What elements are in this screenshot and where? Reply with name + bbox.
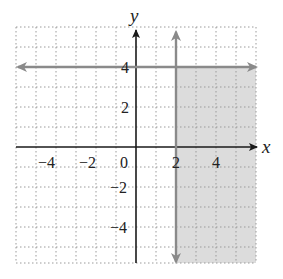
- x-tick-label: 0: [120, 154, 128, 171]
- y-tick-label: 4: [121, 59, 129, 76]
- inequality-graph: x y −4 −2 0 2 4 4 2 −2 −4: [0, 0, 283, 279]
- y-tick-label: −2: [110, 179, 127, 196]
- x-tick-label: −2: [79, 154, 96, 171]
- y-tick-label: −4: [110, 219, 127, 236]
- x-tick-label: −4: [38, 154, 55, 171]
- x-axis-label: x: [261, 136, 271, 157]
- y-tick-label: 2: [121, 99, 129, 116]
- y-axis-label: y: [128, 5, 139, 26]
- x-tick-label: 4: [212, 154, 220, 171]
- x-tick-label: 2: [172, 154, 180, 171]
